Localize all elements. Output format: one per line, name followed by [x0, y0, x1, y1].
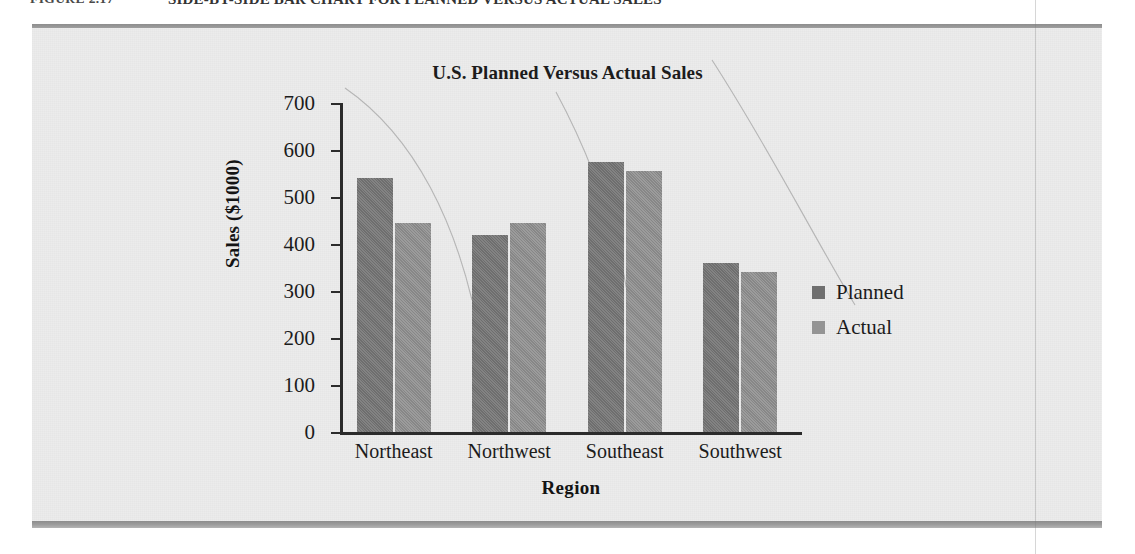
chart-legend: Planned Actual: [812, 282, 904, 352]
x-tick-label-southeast: Southeast: [586, 440, 664, 463]
y-tick: 600: [331, 150, 341, 152]
bar-northwest-planned: [472, 235, 508, 432]
figure-caption: FIGURE 2.17 SIDE-BY-SIDE BAR CHART FOR P…: [0, 0, 1135, 11]
legend-label-actual: Actual: [836, 317, 892, 338]
chart-title: U.S. Planned Versus Actual Sales: [0, 62, 1135, 84]
bar-northeast-planned: [357, 178, 393, 432]
legend-label-planned: Planned: [836, 282, 904, 303]
legend-swatch-actual-icon: [812, 321, 825, 334]
bar-southeast-planned: [588, 162, 624, 432]
plot-area: 0100200300400500600700: [340, 103, 802, 432]
x-axis-line: [340, 432, 802, 435]
bar-southeast-actual: [626, 171, 662, 432]
y-tick: 400: [331, 244, 341, 246]
y-tick: 300: [331, 291, 341, 293]
bar-northwest-actual: [510, 223, 546, 432]
figure-caption-title: SIDE-BY-SIDE BAR CHART FOR PLANNED VERSU…: [168, 0, 662, 8]
y-tick-label: 600: [284, 140, 316, 161]
y-tick-label: 400: [284, 234, 316, 255]
figure-rule-bottom: [32, 521, 1102, 528]
y-tick: 100: [331, 385, 341, 387]
y-tick: 0: [331, 432, 341, 434]
y-tick-label: 200: [284, 328, 316, 349]
y-tick-label: 700: [284, 93, 316, 114]
legend-item-planned: Planned: [812, 282, 904, 303]
bar-southwest-planned: [703, 263, 739, 432]
bar-southwest-actual: [741, 272, 777, 432]
figure-caption-label: FIGURE 2.17: [30, 0, 114, 7]
legend-item-actual: Actual: [812, 317, 904, 338]
y-tick: 700: [331, 103, 341, 105]
y-tick-label: 500: [284, 187, 316, 208]
y-tick-label: 300: [284, 281, 316, 302]
legend-swatch-planned-icon: [812, 286, 825, 299]
x-tick-label-southwest: Southwest: [699, 440, 782, 463]
y-tick-label: 100: [284, 375, 316, 396]
x-axis-label: Region: [340, 477, 802, 499]
x-tick-label-northwest: Northwest: [468, 440, 551, 463]
bar-northeast-actual: [395, 223, 431, 432]
x-tick-label-northeast: Northeast: [355, 440, 433, 463]
y-tick-label: 0: [305, 422, 316, 443]
y-tick: 500: [331, 197, 341, 199]
y-axis-label: Sales ($1000): [222, 159, 244, 268]
y-tick: 200: [331, 338, 341, 340]
